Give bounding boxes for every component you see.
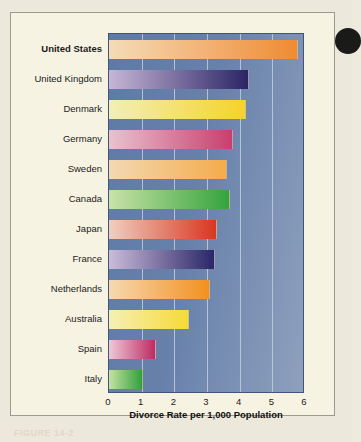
bar — [109, 250, 215, 269]
bar — [109, 130, 233, 149]
category-label: Germany — [63, 129, 102, 148]
bar-series — [109, 34, 303, 392]
category-label: Netherlands — [51, 279, 102, 298]
bar-row — [109, 280, 210, 299]
bar-row — [109, 160, 227, 179]
figure-panel: United StatesUnited KingdomDenmarkGerman… — [10, 12, 335, 416]
x-tick-label: 5 — [269, 396, 274, 407]
x-tick-label: 6 — [301, 396, 306, 407]
x-tick-label: 2 — [171, 396, 176, 407]
x-tick-label: 1 — [138, 396, 143, 407]
bar-row — [109, 100, 246, 119]
bar — [109, 280, 210, 299]
decorative-circle — [335, 28, 361, 54]
caption-artifact: FIGURE 14-2 — [14, 428, 74, 438]
chart-plot-area — [108, 33, 304, 393]
bar-row — [109, 70, 249, 89]
x-axis-ticks: 0123456 — [108, 394, 304, 410]
x-tick-label: 4 — [236, 396, 241, 407]
category-label: Canada — [69, 189, 102, 208]
bar-row — [109, 370, 143, 389]
category-label: Australia — [65, 309, 102, 328]
x-axis-title: Divorce Rate per 1,000 Population — [81, 409, 331, 420]
category-label: United Kingdom — [34, 69, 102, 88]
category-label: Italy — [85, 369, 102, 388]
category-label: France — [72, 249, 102, 268]
bar — [109, 70, 249, 89]
bar-row — [109, 130, 233, 149]
category-axis-labels: United StatesUnited KingdomDenmarkGerman… — [11, 33, 106, 393]
category-label: Denmark — [63, 99, 102, 118]
bar-row — [109, 220, 217, 239]
bar — [109, 100, 246, 119]
category-label: United States — [41, 39, 102, 58]
bar-row — [109, 310, 189, 329]
bar-row — [109, 40, 298, 59]
bar-row — [109, 340, 156, 359]
category-label: Japan — [76, 219, 102, 238]
bar — [109, 190, 230, 209]
bar — [109, 340, 156, 359]
x-tick-label: 0 — [105, 396, 110, 407]
bar — [109, 220, 217, 239]
bar-row — [109, 250, 215, 269]
bar — [109, 40, 298, 59]
bar-row — [109, 190, 230, 209]
x-tick-label: 3 — [203, 396, 208, 407]
bar — [109, 160, 227, 179]
bar — [109, 370, 143, 389]
bar — [109, 310, 189, 329]
category-label: Spain — [78, 339, 102, 358]
category-label: Sweden — [68, 159, 102, 178]
